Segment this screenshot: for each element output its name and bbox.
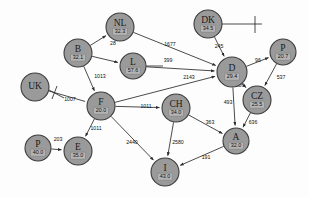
node-value-ch: 34.0 [171,109,182,115]
node-code-p1: P [35,139,40,149]
edge-label-l-d: 399 [164,57,173,63]
edge-f-i [111,116,153,160]
node-code-ch: CH [169,99,182,109]
edge-label-f-d: 2143 [183,74,195,80]
node-value-l: 57.6 [128,67,139,73]
edge-l-d [146,67,214,71]
edge-d-a [233,87,235,125]
edge-label-dk-d: 245 [215,43,224,49]
diagram-canvas: 1677283992459690653721431013100710111011… [0,0,309,197]
edge-label-cz-a: 636 [249,119,258,125]
edge-label-uk-f: 1007 [64,96,76,102]
node-value-f: 20.0 [96,107,107,113]
edge-b-nl [90,36,106,46]
node-code-a: A [233,132,240,142]
node-code-i: I [163,163,166,173]
edge-label-b-f: 1013 [94,73,106,79]
edge-label-d-a: 493 [224,99,233,105]
edge-label-f-e: 1011 [90,125,101,131]
node-nl[interactable]: NL32.3 [106,13,134,41]
node-value-d: 29.4 [227,73,238,79]
tick-uk [49,90,64,98]
node-value-nl: 32.3 [115,28,126,34]
node-code-e: E [75,142,81,152]
node-ch[interactable]: CH34.0 [162,94,190,122]
network-graph: 1677283992459690653721431013100710111011… [0,0,309,197]
edge-b-l [92,56,118,62]
edge-label-p2-cz: 537 [277,74,286,80]
node-e[interactable]: E35.0 [64,137,92,165]
node-p2[interactable]: P20.7 [270,39,296,65]
node-f[interactable]: F20.0 [87,92,115,120]
nodes-layer: UKNL32.3B32.1L57.6DK34.5D29.4P20.7CZ25.5… [21,10,296,186]
edge-label-f-i: 2440 [126,139,138,145]
edge-f-ch [115,106,159,107]
edge-label-f-ch: 1011 [140,103,151,109]
node-value-a: 32.0 [231,142,242,148]
node-code-dk: DK [201,15,215,25]
edge-label-p1-e: 203 [54,136,63,142]
node-l[interactable]: L57.6 [120,53,146,79]
node-p1[interactable]: P40.0 [25,135,51,161]
node-uk[interactable]: UK [21,73,49,101]
edge-label-b-l: 28 [110,40,116,46]
edge-p1-e [51,149,61,150]
edge-label-ch-i: 2580 [172,139,184,145]
edge-label-ch-a: 363 [206,119,215,125]
node-value-b: 32.1 [73,54,84,60]
node-code-d: D [229,63,236,73]
node-code-uk: UK [28,81,42,91]
node-value-e: 35.0 [73,152,84,158]
edge-b-f [84,66,95,91]
node-code-cz: CZ [251,91,263,101]
edge-label-nl-d: 1677 [164,41,176,47]
node-value-cz: 25.5 [252,101,263,107]
node-code-nl: NL [114,18,127,28]
edge-p2-cz [265,64,277,86]
node-a[interactable]: A32.0 [223,128,249,154]
node-value-dk: 34.5 [203,25,214,31]
node-code-l: L [130,57,136,67]
node-b[interactable]: B32.1 [64,39,92,67]
node-code-p2: P [280,43,285,53]
edge-label-a-i: 191 [202,154,211,160]
node-code-f: F [98,97,103,107]
node-dk[interactable]: DK34.5 [194,10,222,38]
node-i[interactable]: I43.0 [151,158,179,186]
node-d[interactable]: D29.4 [217,57,247,87]
node-cz[interactable]: CZ25.5 [243,86,271,114]
node-value-p1: 40.0 [33,149,44,155]
node-value-p2: 20.7 [278,53,289,59]
node-code-b: B [75,44,81,54]
edge-label-d-p2: 96 [255,57,261,63]
node-value-i: 43.0 [160,173,171,179]
